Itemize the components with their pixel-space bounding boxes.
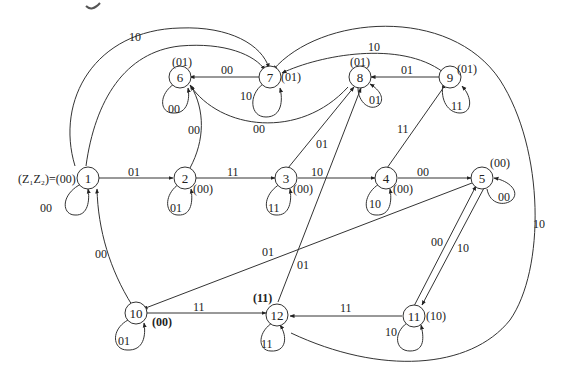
initial-output-label: (Z₁Z₂)=(00) [18, 172, 76, 186]
edge-label-4-5: 00 [417, 165, 429, 179]
state-3-id: 3 [283, 171, 290, 186]
edge-label-10-1: 00 [95, 247, 107, 261]
edge-label-8-8: 01 [369, 93, 381, 107]
state-10-output: (00) [152, 315, 172, 329]
state-5-output: (00) [490, 156, 510, 170]
edge-label-8-6: 00 [253, 122, 265, 136]
edge-label-5-5: 00 [498, 190, 510, 204]
edge-label-9-7: 10 [368, 40, 380, 54]
state-12: 12 [266, 304, 288, 326]
edge-label-5-11: 10 [457, 241, 469, 255]
state-5-id: 5 [479, 171, 486, 186]
edge-label-4-9: 11 [397, 122, 409, 136]
edge-label-7-6: 00 [221, 63, 233, 77]
state-7: 7 [259, 66, 281, 88]
state-5: 5 [471, 167, 493, 189]
state-2-output: (00) [193, 182, 213, 196]
edge-label-9-9: 11 [451, 99, 463, 113]
edge-label-12-12: 11 [261, 337, 273, 351]
edge-label-6-6: 00 [168, 102, 180, 116]
loop-11 [398, 323, 423, 351]
state-1-id: 1 [85, 171, 92, 186]
edge-label-3-4: 10 [311, 165, 323, 179]
edge-label-10-12: 11 [193, 300, 205, 314]
edge-label-5-10: 01 [262, 245, 274, 259]
state-2-id: 2 [182, 171, 189, 186]
state-9-id: 9 [447, 70, 454, 85]
state-4-id: 4 [383, 171, 390, 186]
edge-label-11-11: 10 [385, 325, 397, 339]
scan-artifact [86, 3, 100, 8]
edge-label-7-7: 10 [240, 89, 252, 103]
edge-label-1-2: 01 [128, 165, 140, 179]
edge-label-9-8: 01 [401, 63, 413, 77]
edge-label-12-8: 01 [297, 258, 309, 272]
edge-label-2-3: 11 [227, 165, 239, 179]
state-8-id: 8 [357, 70, 364, 85]
state-6-id: 6 [177, 70, 184, 85]
state-6-output: (01) [172, 55, 192, 69]
loop-7 [253, 84, 282, 117]
state-1: 1 [77, 167, 99, 189]
edge-label-2-6: 00 [188, 123, 200, 137]
state-3-output: (00) [293, 182, 313, 196]
edge-label-2-2: 01 [170, 201, 182, 215]
edge-label-12-7: 10 [533, 217, 545, 231]
state-8-output: (01) [350, 55, 370, 69]
state-10-id: 10 [130, 306, 143, 321]
edge-4-9 [387, 84, 446, 168]
state-10: 10 [125, 302, 147, 324]
edge-3-8 [288, 87, 354, 168]
edge-label-3-8: 01 [316, 137, 328, 151]
state-7-output: (01) [281, 70, 301, 84]
edge-label-3-3: 11 [268, 201, 280, 215]
edge-label-10-10: 01 [118, 334, 130, 348]
state-diagram: 1 2 3 4 5 6 7 8 9 10 11 12 (Z₁Z₂)=(00) (… [0, 0, 561, 373]
edge-label-1-7: 10 [129, 30, 141, 44]
edge-label-11-5: 00 [431, 235, 443, 249]
state-9-output: (01) [457, 62, 477, 76]
state-8: 8 [349, 66, 371, 88]
state-6: 6 [169, 66, 191, 88]
state-11: 11 [403, 305, 425, 327]
state-11-output: (10) [426, 309, 446, 323]
state-11-id: 11 [408, 309, 421, 324]
state-12-output: (11) [253, 291, 272, 305]
state-4-output: (00) [393, 182, 413, 196]
edge-label-11-12: 11 [340, 301, 352, 315]
edge-label-1-1: 00 [40, 201, 52, 215]
edge-label-4-4: 10 [369, 197, 381, 211]
state-7-id: 7 [267, 70, 274, 85]
state-12-id: 12 [271, 308, 284, 323]
